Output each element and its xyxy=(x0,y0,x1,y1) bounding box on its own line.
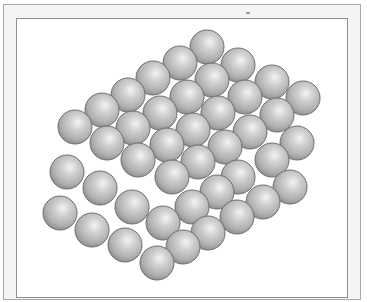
sphere xyxy=(50,155,84,189)
sphere xyxy=(108,228,142,262)
sphere xyxy=(90,126,124,160)
sphere xyxy=(43,196,77,230)
sphere-cluster xyxy=(0,0,367,302)
sphere xyxy=(75,213,109,247)
sphere xyxy=(121,143,155,177)
sphere xyxy=(155,160,189,194)
sphere xyxy=(83,171,117,205)
sphere xyxy=(115,190,149,224)
sphere xyxy=(220,200,254,234)
sphere xyxy=(58,110,92,144)
sphere xyxy=(140,246,174,280)
spheres-group xyxy=(43,30,320,280)
